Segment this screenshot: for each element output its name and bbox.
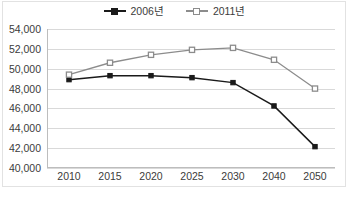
series-line	[69, 76, 315, 147]
data-point-marker[interactable]	[108, 73, 112, 77]
data-point-marker[interactable]	[231, 80, 235, 84]
y-axis-tick-label: 52,000	[9, 43, 41, 55]
data-point-marker[interactable]	[190, 75, 194, 79]
legend-label-2006: 2006년	[131, 6, 164, 17]
x-axis-tick-label: 2010	[57, 170, 80, 182]
x-axis-tick-label: 2015	[98, 170, 121, 182]
x-axis-tick-label: 2040	[262, 170, 285, 182]
gridline	[47, 168, 335, 169]
series-line	[69, 48, 315, 89]
y-axis-tick-label: 42,000	[9, 142, 41, 154]
data-point-marker[interactable]	[67, 77, 71, 81]
data-point-marker[interactable]	[230, 45, 235, 50]
y-axis-tick-labels: 54,00052,00050,00048,00046,00044,00042,0…	[0, 29, 45, 168]
y-axis-tick-label: 40,000	[9, 162, 41, 174]
x-axis-tick-label: 2025	[180, 170, 203, 182]
data-point-marker[interactable]	[271, 57, 276, 62]
y-axis-tick-label: 54,000	[9, 23, 41, 35]
y-axis-tick-label: 48,000	[9, 83, 41, 95]
x-axis-tick-labels: 2010201520202025203020402050	[47, 170, 335, 186]
legend-label-2011: 2011년	[213, 6, 246, 17]
data-point-marker[interactable]	[149, 73, 153, 77]
data-point-marker[interactable]	[66, 72, 71, 77]
y-axis-tick-label: 50,000	[9, 63, 41, 75]
series-2006	[67, 73, 317, 148]
data-point-marker[interactable]	[148, 52, 153, 57]
legend-item-2006[interactable]: 2006년	[104, 3, 164, 19]
data-point-marker[interactable]	[107, 60, 112, 65]
y-axis-tick-label: 44,000	[9, 122, 41, 134]
x-axis-tick-label: 2050	[303, 170, 326, 182]
data-point-marker[interactable]	[312, 86, 317, 91]
legend-key-2006-icon	[104, 6, 126, 16]
data-point-marker[interactable]	[189, 47, 194, 52]
plot-area	[47, 29, 335, 168]
x-axis-tick-label: 2030	[221, 170, 244, 182]
series-2011	[66, 45, 317, 91]
chart-legend: 2006년 2011년	[0, 3, 349, 19]
series-layer	[47, 29, 335, 168]
data-point-marker[interactable]	[313, 144, 317, 148]
legend-key-2011-icon	[186, 6, 208, 16]
chart-figure: 2006년 2011년 54,00052,00050,00048,00046,0…	[0, 0, 349, 210]
legend-item-2011[interactable]: 2011년	[186, 3, 246, 19]
data-point-marker[interactable]	[272, 104, 276, 108]
x-axis-tick-label: 2020	[139, 170, 162, 182]
y-axis-tick-label: 46,000	[9, 102, 41, 114]
